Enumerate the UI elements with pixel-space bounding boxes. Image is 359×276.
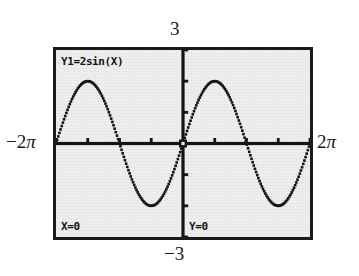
curve-pixel [304, 156, 307, 159]
calculator-screen[interactable]: Y1=2sin(X) X=0 Y=0 [53, 47, 313, 240]
curve-pixel [262, 188, 265, 191]
curve-pixel [293, 186, 296, 189]
curve-pixel [238, 119, 241, 122]
curve-pixel [308, 145, 310, 148]
curve-pixel [101, 95, 104, 98]
curve-pixel [242, 133, 245, 136]
curve-pixel [184, 137, 187, 140]
curve-pixel [116, 134, 119, 137]
curve-pixel [128, 172, 131, 175]
curve-pixel [120, 149, 123, 152]
curve-pixel [69, 103, 72, 106]
curve-pixel [257, 177, 260, 180]
curve-pixel [196, 101, 199, 104]
curve-pixel [256, 174, 259, 177]
curve-pixel [195, 104, 198, 107]
curve-pixel [72, 95, 75, 98]
curve-pixel [228, 96, 231, 99]
curve-pixel [135, 189, 138, 192]
curve-pixel [165, 188, 168, 191]
curve-pixel [255, 171, 258, 174]
curve-pixel [112, 124, 115, 127]
curve-pixel [63, 118, 66, 121]
curve-pixel [167, 183, 170, 186]
curve-pixel [172, 171, 175, 174]
curve-pixel [301, 166, 304, 169]
x-axis-tick [213, 138, 216, 143]
y-axis-tick [183, 80, 188, 83]
curve-pixel [104, 102, 107, 105]
curve-pixel [296, 178, 299, 181]
curve-pixel [109, 114, 112, 117]
y-axis-tick [183, 204, 188, 207]
curve-pixel [169, 180, 172, 183]
curve-pixel [66, 109, 69, 112]
curve-pixel [295, 181, 298, 184]
curve-pixel [67, 106, 70, 109]
curve-pixel [258, 180, 261, 183]
curve-pixel [166, 185, 169, 188]
curve-pixel [261, 185, 264, 188]
curve-pixel [197, 99, 200, 102]
x-max-sign: 2 [317, 131, 327, 152]
curve-pixel [185, 133, 188, 136]
graph-plot-area[interactable] [56, 50, 310, 237]
curve-pixel [243, 136, 246, 139]
y-axis-tick [183, 111, 188, 114]
curve-pixel [133, 184, 136, 187]
curve-pixel [259, 182, 262, 185]
equation-label: Y1=2sin(X) [61, 56, 123, 67]
curve-pixel [175, 161, 178, 164]
curve-pixel [179, 151, 182, 154]
curve-pixel [241, 129, 244, 132]
curve-pixel [58, 132, 61, 135]
curve-pixel [236, 116, 239, 119]
curve-pixel [186, 130, 189, 133]
curve-pixel [115, 131, 118, 134]
curve-pixel [244, 140, 247, 143]
curve-pixel [57, 135, 60, 138]
curve-pixel [246, 143, 249, 146]
trace-cursor [179, 140, 187, 148]
curve-pixel [65, 112, 68, 115]
curve-pixel [103, 100, 106, 103]
curve-pixel [180, 147, 183, 150]
curve-pixel [254, 168, 257, 171]
curve-pixel [189, 119, 192, 122]
curve-pixel [131, 178, 134, 181]
curve-pixel [294, 184, 297, 187]
curve-pixel [127, 169, 130, 172]
curve-pixel [300, 169, 303, 172]
curve-pixel [247, 147, 250, 150]
curve-pixel [108, 111, 111, 114]
curve-pixel [119, 145, 122, 148]
x-min-pi-symbol: π [26, 131, 36, 152]
curve-pixel [134, 186, 137, 189]
y-coordinate-readout: Y=0 [189, 221, 208, 232]
curve-pixel [164, 190, 167, 193]
curve-pixel [230, 99, 233, 102]
curve-pixel [251, 161, 254, 164]
curve-pixel [174, 165, 177, 168]
curve-pixel [248, 151, 251, 154]
curve-pixel [234, 110, 237, 113]
curve-pixel [250, 157, 253, 160]
curve-pixel [113, 127, 116, 130]
curve-pixel [192, 113, 195, 116]
x-min-annotation: −2π [6, 131, 36, 153]
curve-pixel [62, 121, 65, 124]
curve-pixel [118, 141, 121, 144]
curve-pixel [173, 168, 176, 171]
curve-pixel [239, 123, 242, 126]
curve-pixel [235, 113, 238, 116]
curve-pixel [194, 107, 197, 110]
x-axis-tick [86, 138, 89, 143]
curve-pixel [105, 105, 108, 108]
curve-pixel [187, 126, 190, 129]
curve-pixel [170, 177, 173, 180]
curve-pixel [198, 96, 201, 99]
curve-pixel [71, 98, 74, 101]
curve-pixel [60, 125, 63, 128]
curve-pixel [193, 110, 196, 113]
curve-pixel [111, 121, 114, 124]
